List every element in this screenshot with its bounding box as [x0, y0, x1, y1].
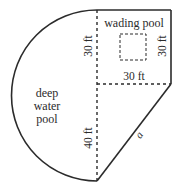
deep-pool-label-line3: pool — [36, 112, 58, 126]
wading-pool-square — [120, 34, 146, 60]
dimension-label-horizontal: 30 ft — [123, 70, 145, 82]
deep-pool-label-line1: deep — [36, 86, 59, 100]
dimension-label-upper-left: 30 ft — [82, 34, 94, 56]
dimension-label-lower: 40 ft — [82, 126, 94, 148]
deep-pool-label-line2: water — [34, 99, 61, 113]
dimension-label-diagonal: a — [132, 129, 145, 141]
pool-diagram: wading pool deep water pool 30 ft 30 ft … — [0, 0, 178, 191]
wading-pool-label: wading pool — [104, 16, 164, 30]
dimension-label-right: 30 ft — [156, 34, 168, 56]
